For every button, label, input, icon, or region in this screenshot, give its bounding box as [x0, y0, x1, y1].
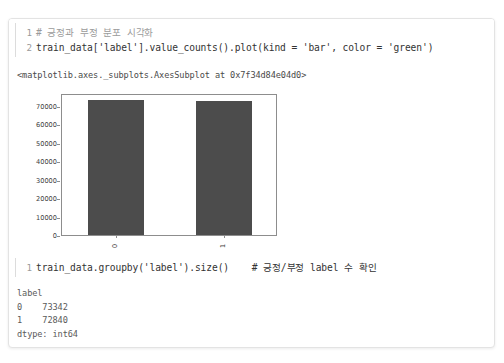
- code-line: 1 train_data.groupby('label').size() # 긍…: [9, 260, 494, 275]
- cell-output-stream: label 0 73342 1 72840 dtype: int64: [9, 281, 494, 345]
- code-text: # 긍정과 부정 분포 시각화: [36, 25, 153, 40]
- y-tick-mark: [57, 144, 60, 145]
- x-tick-label: 0: [111, 240, 119, 252]
- line-number: 2: [21, 40, 32, 55]
- code-line: 2 train_data['label'].value_counts().plo…: [9, 40, 494, 55]
- code-text: train_data['label'].value_counts().plot(…: [36, 40, 433, 55]
- y-tick-mark: [57, 236, 60, 237]
- notebook-card: 1 # 긍정과 부정 분포 시각화 2 train_data['label'].…: [8, 18, 495, 348]
- y-tick-mark: [57, 199, 60, 200]
- code-cell-1[interactable]: 1 # 긍정과 부정 분포 시각화 2 train_data['label'].…: [9, 19, 494, 61]
- bar: [196, 101, 252, 235]
- line-number: 1: [21, 260, 32, 275]
- code-line: 1 # 긍정과 부정 분포 시각화: [9, 25, 494, 40]
- y-tick-mark: [57, 162, 60, 163]
- y-tick-mark: [57, 218, 60, 219]
- code-text: train_data.groupby('label').size() # 긍정/…: [36, 260, 376, 275]
- code-cell-2[interactable]: 1 train_data.groupby('label').size() # 긍…: [9, 254, 494, 281]
- y-tick-mark: [57, 181, 60, 182]
- line-number: 1: [21, 25, 32, 40]
- y-tick-mark: [57, 107, 60, 108]
- x-tick-label: 1: [219, 240, 227, 252]
- bar: [88, 100, 144, 235]
- x-tick-mark: [224, 235, 225, 238]
- bar-chart: 010000200003000040000500006000070000 01: [19, 92, 281, 252]
- cell-output-figure: 010000200003000040000500006000070000 01: [9, 88, 494, 254]
- plot-area: [61, 94, 277, 236]
- cell-output-repr: <matplotlib.axes._subplots.AxesSubplot a…: [9, 61, 494, 88]
- y-tick-mark: [57, 125, 60, 126]
- x-tick-mark: [116, 235, 117, 238]
